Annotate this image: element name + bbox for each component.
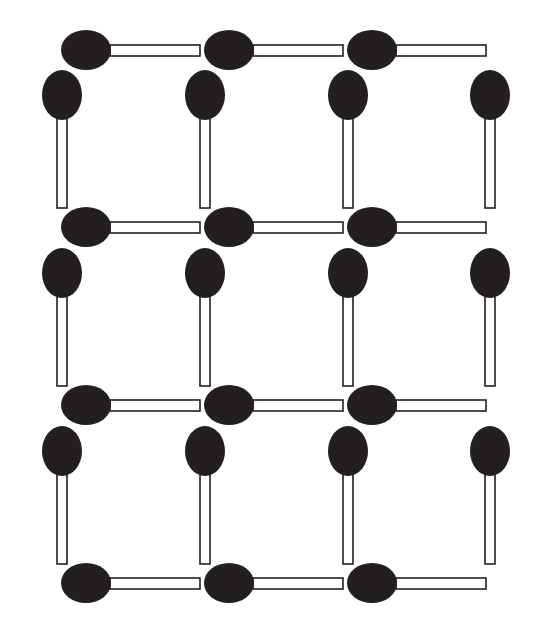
match-head: [204, 30, 254, 70]
match-stick: [110, 578, 200, 589]
match-head: [470, 248, 510, 298]
match-stick: [396, 400, 486, 411]
match-head: [42, 70, 82, 120]
match-stick: [485, 474, 495, 564]
match-head: [470, 70, 510, 120]
match-head: [204, 207, 254, 247]
match-head: [61, 30, 111, 70]
match-head: [347, 30, 397, 70]
match-head: [61, 207, 111, 247]
match-stick: [485, 296, 495, 386]
match-head: [347, 207, 397, 247]
match-stick: [57, 474, 67, 564]
match-head: [61, 563, 111, 603]
match-head: [470, 426, 510, 476]
match-stick: [253, 578, 343, 589]
match-stick: [57, 296, 67, 386]
match-stick: [396, 45, 486, 56]
match-head: [328, 248, 368, 298]
match-head: [347, 385, 397, 425]
match-head: [204, 563, 254, 603]
match-head: [185, 248, 225, 298]
match-stick: [396, 222, 486, 233]
match-stick: [343, 296, 353, 386]
match-stick: [485, 118, 495, 208]
match-stick: [200, 118, 210, 208]
matchstick-figure: [0, 0, 542, 622]
match-head: [185, 70, 225, 120]
match-stick: [110, 45, 200, 56]
match-head: [328, 426, 368, 476]
match-head: [204, 385, 254, 425]
match-stick: [110, 222, 200, 233]
match-stick: [200, 296, 210, 386]
match-stick: [253, 400, 343, 411]
match-stick: [57, 118, 67, 208]
match-stick: [343, 118, 353, 208]
match-stick: [200, 474, 210, 564]
match-head: [347, 563, 397, 603]
match-stick: [253, 45, 343, 56]
match-stick: [253, 222, 343, 233]
match-head: [42, 248, 82, 298]
match-head: [42, 426, 82, 476]
match-stick: [396, 578, 486, 589]
match-head: [61, 385, 111, 425]
matchstick-grid-canvas: [0, 0, 542, 622]
match-stick: [110, 400, 200, 411]
match-stick: [343, 474, 353, 564]
match-head: [185, 426, 225, 476]
match-head: [328, 70, 368, 120]
